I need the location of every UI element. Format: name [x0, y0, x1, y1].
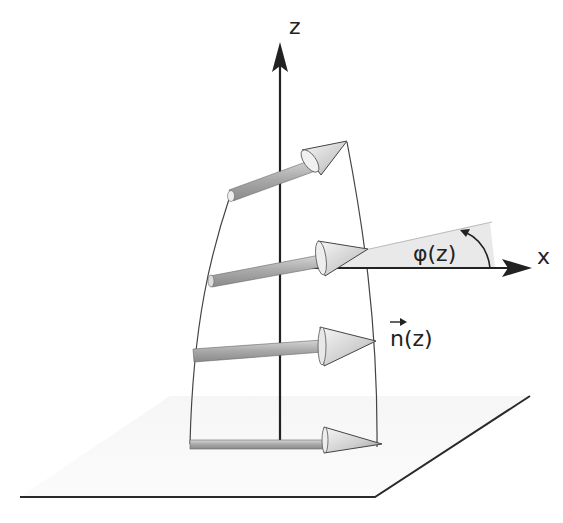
angle-label: φ(z)	[413, 241, 456, 266]
director-arrow-2	[208, 240, 368, 287]
director-arrow-3	[193, 327, 376, 366]
director-label: n(z)	[390, 326, 433, 351]
diagram-canvas	[0, 0, 563, 523]
z-axis-label: z	[289, 14, 301, 39]
vector-arrow-icon	[390, 318, 407, 326]
director-arrow-1	[228, 141, 348, 202]
x-axis-label: x	[537, 244, 550, 269]
z-axis	[272, 42, 288, 440]
